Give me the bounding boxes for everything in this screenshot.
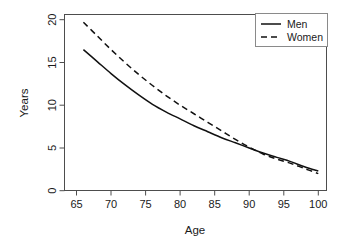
x-tick-label-90: 90: [243, 198, 255, 210]
chart-figure: 65 70 75 80 85 90 95 100 0 5 10 15 20 Ag…: [0, 0, 350, 249]
x-axis-tick-labels: 65 70 75 80 85 90 95 100: [70, 198, 327, 210]
chart-legend: Men Women: [256, 14, 328, 47]
y-axis-ticks: [60, 20, 65, 191]
line-chart-plot: 65 70 75 80 85 90 95 100 0 5 10 15 20 Ag…: [0, 0, 350, 249]
x-tick-label-85: 85: [209, 198, 221, 210]
x-tick-label-70: 70: [105, 198, 117, 210]
legend-label-women: Women: [287, 31, 323, 43]
y-tick-label-5: 5: [46, 145, 58, 151]
x-tick-label-80: 80: [174, 198, 186, 210]
y-tick-label-15: 15: [46, 56, 58, 68]
y-axis-tick-labels: 0 5 10 15 20: [46, 14, 58, 194]
y-tick-label-20: 20: [46, 14, 58, 26]
x-axis-title: Age: [185, 224, 205, 236]
x-axis-ticks: [77, 191, 319, 196]
series-line-men: [83, 50, 318, 171]
legend-label-men: Men: [287, 18, 308, 30]
y-tick-label-0: 0: [46, 188, 58, 194]
y-tick-label-10: 10: [46, 99, 58, 111]
x-tick-label-95: 95: [278, 198, 290, 210]
y-axis-title: Years: [18, 88, 30, 117]
x-tick-label-65: 65: [70, 198, 82, 210]
x-tick-label-100: 100: [309, 198, 327, 210]
x-tick-label-75: 75: [139, 198, 151, 210]
